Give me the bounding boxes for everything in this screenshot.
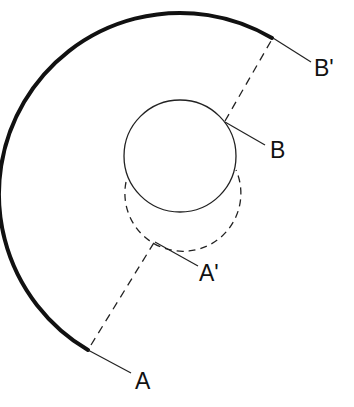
leader-line-b-prime [273, 38, 311, 62]
leader-line-a [88, 350, 131, 373]
leader-line-a-prime [155, 242, 198, 266]
dashed-circle-arc [125, 170, 241, 251]
label-b-prime: B' [314, 55, 334, 81]
inner-circle [124, 100, 236, 212]
diagram-canvas: B' B A' A [0, 0, 354, 407]
label-a: A [135, 368, 151, 394]
dashed-chord-upper [225, 41, 271, 121]
label-b: B [270, 137, 285, 163]
label-a-prime: A' [199, 260, 219, 286]
outer-arc [0, 13, 272, 350]
dashed-chord-lower [91, 241, 155, 345]
